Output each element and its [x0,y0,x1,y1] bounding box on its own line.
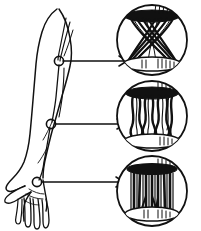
detail-circle-middle [117,81,187,151]
detail-bottom-lower-plate [125,207,179,221]
arrow-upper [63,56,127,66]
anatomical-figure: Arm with three magnified muscle fiber cr… [0,0,201,231]
arm-outer-contour [6,9,57,191]
detail-circle-bottom [117,156,187,226]
detail-circle-top [117,3,187,75]
figure-canvas [0,0,201,231]
arrow-lower [42,177,124,187]
marker-wrist[interactable] [32,177,41,186]
arm-illustration [5,9,73,229]
detail-bottom-content [125,159,179,221]
hand-finger-middle [33,199,40,229]
hand-finger-little [16,199,22,224]
detail-bottom-fibers-thick [134,171,170,212]
arrow-middle [56,119,125,129]
hand-outer-edge [43,180,47,211]
detail-middle-content [124,81,180,148]
forearm-tendon-lower [39,128,50,180]
